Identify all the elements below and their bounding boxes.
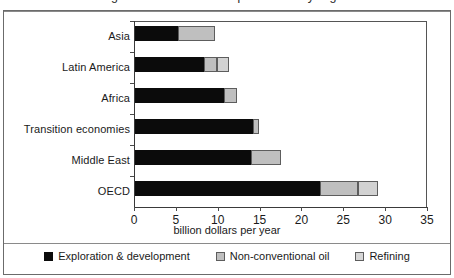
bar-segment[interactable] bbox=[178, 26, 216, 41]
bar-segment[interactable] bbox=[320, 181, 358, 196]
stacked-bar[interactable] bbox=[135, 57, 229, 72]
stacked-bar[interactable] bbox=[135, 26, 215, 41]
plot-area: AsiaLatin AmericaAfricaTransition econom… bbox=[134, 21, 427, 207]
y-axis-tick bbox=[130, 52, 134, 53]
bar-row: OECD bbox=[134, 176, 427, 207]
x-tick-mark bbox=[134, 207, 135, 211]
stacked-bar[interactable] bbox=[135, 119, 259, 134]
chart-legend: Exploration & development Non-convention… bbox=[0, 250, 454, 262]
figure-top-rule bbox=[4, 11, 450, 12]
bar-segment[interactable] bbox=[251, 150, 280, 165]
bar-segment[interactable] bbox=[135, 119, 253, 134]
bar-segment[interactable] bbox=[358, 181, 378, 196]
x-tick-mark bbox=[385, 207, 386, 211]
category-label: Asia bbox=[0, 30, 130, 42]
bar-segment[interactable] bbox=[253, 119, 259, 134]
y-axis-tick bbox=[130, 176, 134, 177]
legend-label: Refining bbox=[369, 250, 409, 262]
legend-label: Exploration & development bbox=[58, 250, 189, 262]
category-label: Transition economies bbox=[0, 123, 130, 135]
x-tick-mark bbox=[427, 207, 428, 211]
legend-swatch-icon-exploration-development bbox=[44, 252, 53, 261]
category-label: Latin America bbox=[0, 61, 130, 73]
legend-item-refining: Refining bbox=[355, 250, 409, 262]
bar-row: Transition economies bbox=[134, 114, 427, 145]
legend-divider bbox=[4, 243, 450, 244]
legend-label: Non-conventional oil bbox=[230, 250, 330, 262]
bar-segment[interactable] bbox=[135, 88, 224, 103]
bar-row: Latin America bbox=[134, 52, 427, 83]
x-tick-mark bbox=[301, 207, 302, 211]
bar-row: Asia bbox=[134, 21, 427, 52]
y-axis-tick bbox=[130, 83, 134, 84]
bar-row: Africa bbox=[134, 83, 427, 114]
category-label: Middle East bbox=[0, 154, 130, 166]
bar-segment[interactable] bbox=[135, 57, 204, 72]
y-axis-tick bbox=[130, 114, 134, 115]
x-tick-mark bbox=[176, 207, 177, 211]
x-tick-mark bbox=[260, 207, 261, 211]
chart-figure: Figure 1: Investment requirements by reg… bbox=[0, 0, 454, 278]
x-tick-mark bbox=[218, 207, 219, 211]
clipped-figure-title: Figure 1: Investment requirements by reg… bbox=[0, 0, 454, 4]
bar-segment[interactable] bbox=[204, 57, 217, 72]
bar-row: Middle East bbox=[134, 145, 427, 176]
stacked-bar[interactable] bbox=[135, 88, 237, 103]
stacked-bar[interactable] bbox=[135, 150, 281, 165]
stacked-bar[interactable] bbox=[135, 181, 378, 196]
legend-swatch-icon-non-conventional-oil bbox=[216, 252, 225, 261]
legend-item-non-conventional-oil: Non-conventional oil bbox=[216, 250, 330, 262]
bar-segment[interactable] bbox=[217, 57, 229, 72]
category-label: OECD bbox=[0, 185, 130, 197]
y-axis-tick bbox=[130, 145, 134, 146]
bar-segment[interactable] bbox=[135, 181, 320, 196]
bar-rows: AsiaLatin AmericaAfricaTransition econom… bbox=[134, 21, 427, 207]
legend-item-exploration-development: Exploration & development bbox=[44, 250, 189, 262]
bar-segment[interactable] bbox=[224, 88, 237, 103]
bar-segment[interactable] bbox=[135, 150, 251, 165]
category-label: Africa bbox=[0, 92, 130, 104]
x-tick-mark bbox=[343, 207, 344, 211]
x-axis-label: billion dollars per year bbox=[0, 224, 454, 236]
y-axis-tick bbox=[130, 21, 134, 22]
legend-swatch-icon-refining bbox=[355, 252, 364, 261]
bar-segment[interactable] bbox=[135, 26, 178, 41]
